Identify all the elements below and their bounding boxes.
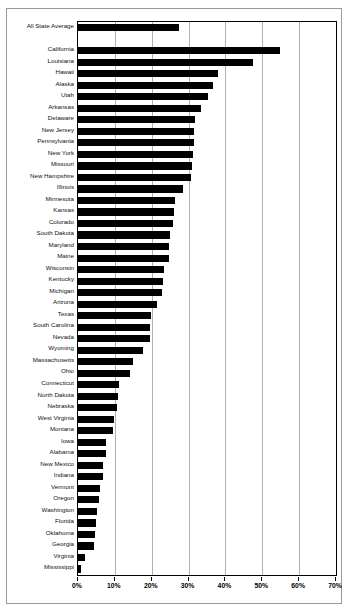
category-label: Arizona [53,296,74,308]
bar [78,59,253,66]
bar-row: West Virginia [78,414,336,426]
category-label: South Carolina [33,319,74,331]
category-label: Nebraska [48,400,74,412]
category-label: Minnesota [45,193,74,205]
bar-row: Massachusetts [78,356,336,368]
bar [78,496,99,503]
x-axis: 0%10%20%30%40%50%60%70% [77,577,337,597]
bar [78,231,170,238]
x-tick-label: 20% [144,582,158,589]
category-label: Florida [55,515,74,527]
bar [78,208,174,215]
category-label: New Hampshire [30,170,74,182]
bar [78,289,162,296]
bar-row: Vermont [78,483,336,495]
category-label: Maryland [49,239,74,251]
category-label: Ohio [61,365,74,377]
bar-row: Alaska [78,80,336,92]
category-label: Alabama [50,446,74,458]
bar [78,128,194,135]
bar-rows: All State AverageCaliforniaLouisianaHawa… [78,22,336,575]
category-label: Alaska [55,78,74,90]
bar-row: Nevada [78,333,336,345]
bar-row: Michigan [78,287,336,299]
category-label: Arkansas [48,101,74,113]
bar [78,450,106,457]
bar [78,139,194,146]
category-label: Louisiana [48,55,75,67]
category-label: Delaware [48,112,74,124]
bar-row: Kentucky [78,275,336,287]
bar [78,508,97,515]
bar [78,185,183,192]
bar-row: New Hampshire [78,172,336,184]
category-label: Indiana [54,469,74,481]
bar-row: Delaware [78,114,336,126]
bar [78,347,143,354]
bar-row: Arkansas [78,103,336,115]
bar-row: Washington [78,506,336,518]
bar-row: Oregon [78,494,336,506]
bar-row: Wisconsin [78,264,336,276]
bar-row: New Jersey [78,126,336,138]
bar-row: Louisiana [78,57,336,69]
x-tick-label: 60% [291,582,305,589]
bar-row [78,34,336,46]
category-label: Texas [58,308,74,320]
x-tick-label: 50% [254,582,268,589]
bar [78,393,118,400]
x-tick [224,577,225,581]
bar-row: All State Average [78,22,336,34]
bar [78,243,169,250]
bar-row: Wyoming [78,344,336,356]
x-tick-label: 10% [107,582,121,589]
category-label: Oregon [53,492,74,504]
bar [78,255,169,262]
bar-row: Iowa [78,437,336,449]
bar-row: Mississippi [78,563,336,575]
bar-row: Georgia [78,540,336,552]
bar-row: New York [78,149,336,161]
category-label: Utah [61,89,74,101]
bar [78,519,96,526]
chart-figure: All State AverageCaliforniaLouisianaHawa… [6,8,342,604]
category-label: Kentucky [49,273,74,285]
category-label: Wyoming [48,342,74,354]
x-tick [151,577,152,581]
bar-row: Illinois [78,183,336,195]
bar-row: Montana [78,425,336,437]
bar [78,82,213,89]
bar-row: Kansas [78,206,336,218]
category-label: California [48,43,74,55]
category-label: Michigan [49,285,74,297]
category-label: Massachusetts [33,354,74,366]
bar-row: Utah [78,91,336,103]
category-label: Washington [42,504,74,516]
bar [78,105,201,112]
category-label: Virginia [53,550,74,562]
bar-row: Hawaii [78,68,336,80]
category-label: Wisconsin [46,262,74,274]
category-label: Vermont [51,481,74,493]
category-label: Kansas [53,204,74,216]
bar [78,220,173,227]
category-label: Illinois [57,181,74,193]
x-tick-label: 70% [328,582,342,589]
x-tick-label: 0% [72,582,82,589]
bar [78,151,193,158]
bar-row: Ohio [78,367,336,379]
bar-row: Pennsylvania [78,137,336,149]
bar-row: Indiana [78,471,336,483]
bar [78,358,133,365]
bar-row: Maryland [78,241,336,253]
bar-row: Texas [78,310,336,322]
bar-row: Virginia [78,552,336,564]
bar [78,542,94,549]
plot-area: All State AverageCaliforniaLouisianaHawa… [77,21,337,576]
bar-row: Colorado [78,218,336,230]
bar-row: Minnesota [78,195,336,207]
x-tick [298,577,299,581]
bar [78,162,192,169]
category-label: Pennsylvania [37,135,74,147]
bar [78,70,218,77]
